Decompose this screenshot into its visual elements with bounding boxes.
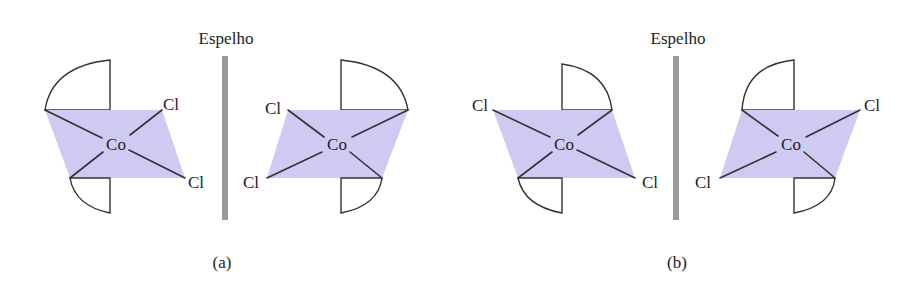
- atom-cl: Cl: [695, 173, 711, 192]
- molecule-a-right: Co Cl Cl: [243, 60, 408, 213]
- atom-cl: Cl: [163, 95, 179, 114]
- chelate-ring-bottom: [341, 178, 382, 213]
- molecule-a-left: Co Cl Cl: [45, 60, 204, 213]
- atom-co: Co: [554, 135, 574, 154]
- chelate-ring-bottom: [70, 178, 110, 213]
- atom-co: Co: [327, 135, 347, 154]
- atom-cl: Cl: [864, 96, 880, 115]
- caption-a: (a): [213, 253, 232, 272]
- mirror-line-a: [222, 56, 228, 220]
- atom-cl: Cl: [472, 96, 488, 115]
- panel-a: Espelho (a) Co Cl Cl Co Cl Cl: [45, 29, 408, 272]
- mirror-line-b: [673, 56, 679, 220]
- chelate-ring-top: [45, 60, 110, 110]
- chelate-ring-top: [341, 60, 408, 110]
- mirror-label-a: Espelho: [199, 29, 254, 48]
- atom-cl: Cl: [642, 173, 658, 192]
- atom-cl: Cl: [243, 173, 259, 192]
- mirror-label-b: Espelho: [651, 29, 706, 48]
- chelate-ring-top: [562, 64, 612, 110]
- atom-co: Co: [106, 135, 126, 154]
- atom-co: Co: [781, 135, 801, 154]
- chelate-ring-top: [742, 60, 794, 110]
- molecule-b-right: Co Cl Cl: [695, 60, 880, 213]
- atom-cl: Cl: [265, 99, 281, 118]
- molecule-b-left: Co Cl Cl: [472, 64, 658, 213]
- caption-b: (b): [667, 253, 687, 272]
- atom-cl: Cl: [188, 173, 204, 192]
- chelate-ring-bottom: [518, 178, 562, 213]
- enantiomer-mirror-diagram: Espelho (a) Co Cl Cl Co Cl Cl: [0, 0, 916, 284]
- panel-b: Espelho (b) Co Cl Cl Co Cl Cl: [472, 29, 880, 272]
- chelate-ring-bottom: [794, 178, 835, 213]
